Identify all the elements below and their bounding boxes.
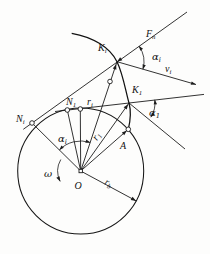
diagram-canvas: Fn Ki αi vi K1 N1 ri Ni α1 αi r1 A ω O r… bbox=[0, 0, 210, 254]
radius-oni-line bbox=[32, 123, 81, 171]
label-vi: vi bbox=[165, 63, 171, 75]
label-ri: ri bbox=[87, 96, 93, 108]
radius-on1-line bbox=[67, 110, 80, 171]
label-alpha-i-center: αi bbox=[58, 133, 67, 146]
label-o: O bbox=[75, 180, 82, 191]
point-circle-top-marker bbox=[78, 107, 83, 112]
point-ni-marker bbox=[30, 121, 35, 126]
label-k1: K1 bbox=[131, 84, 142, 96]
label-alpha-1: α1 bbox=[149, 107, 160, 120]
label-ni: Ni bbox=[15, 113, 25, 125]
point-n1-marker bbox=[65, 108, 70, 113]
label-r1: r1 bbox=[89, 130, 103, 143]
velocity-line-ki bbox=[117, 62, 196, 85]
vi-arrowhead bbox=[191, 81, 197, 86]
omega-arrowhead bbox=[56, 176, 61, 182]
point-on-ri-marker bbox=[108, 79, 113, 84]
center-o-marker bbox=[79, 169, 82, 172]
involute-gear-diagram: Fn Ki αi vi K1 N1 ri Ni α1 αi r1 A ω O r… bbox=[0, 0, 210, 254]
label-omega: ω bbox=[44, 168, 52, 179]
label-n1: N1 bbox=[65, 96, 76, 108]
label-ki: Ki bbox=[97, 42, 107, 54]
label-a: A bbox=[119, 140, 127, 151]
label-fn: Fn bbox=[145, 28, 156, 40]
velocity-line-k1 bbox=[129, 103, 185, 149]
label-alpha-i: αi bbox=[152, 51, 161, 64]
line-of-action-fn bbox=[23, 12, 187, 129]
point-a-marker bbox=[126, 127, 131, 132]
